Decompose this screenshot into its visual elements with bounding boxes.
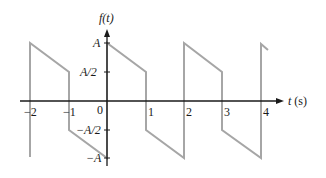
x-tick-label-3: 3 xyxy=(224,105,230,119)
x-axis-label: t (s) xyxy=(288,94,307,108)
x-tick-label-m2: −2 xyxy=(24,105,37,119)
chart: f(t) A A/2 −A/2 −A −2 −1 0 1 2 3 4 t (s) xyxy=(0,0,326,178)
y-axis-label: f(t) xyxy=(99,11,114,25)
x-tick-label-m1: −1 xyxy=(63,105,76,119)
x-tick-label-2: 2 xyxy=(186,105,192,119)
y-tick-label-negA: −A xyxy=(86,151,102,165)
y-tick-label-negA2: −A/2 xyxy=(76,123,101,137)
y-tick-label-A2: A/2 xyxy=(79,65,97,79)
x-axis-arrow-icon xyxy=(276,98,284,104)
x-tick-label-4: 4 xyxy=(263,105,269,119)
y-tick-label-A: A xyxy=(92,36,101,50)
y-axis-arrow-icon xyxy=(104,29,110,37)
x-tick-label-1: 1 xyxy=(148,105,154,119)
x-tick-label-0: 0 xyxy=(97,103,103,117)
